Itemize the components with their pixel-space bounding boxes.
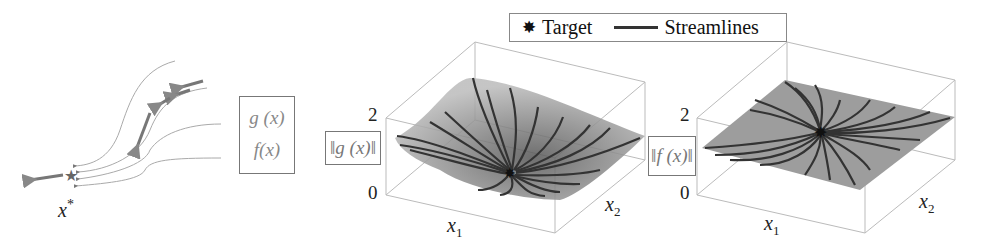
sketch-trajectories	[75, 61, 221, 186]
target-star-superscript: *	[67, 197, 74, 212]
x1-var: x	[764, 212, 773, 234]
x2-sub: 2	[614, 204, 621, 219]
target-x: x	[58, 199, 67, 221]
plot-f-ztick-0: 0	[680, 182, 690, 204]
legend-target-label: Target	[542, 16, 592, 39]
plot-g-ztick-2: 2	[368, 104, 378, 126]
legend-streamlines-label: Streamlines	[664, 16, 758, 39]
streamline-line-icon	[614, 26, 658, 29]
plot-g-zlabel: ‖g (x)‖	[325, 131, 381, 165]
plot-f-target-marker: ✸	[814, 124, 827, 141]
plot-g-xlabel: x1	[447, 214, 462, 241]
plot-f-zlabel: ‖f (x)‖	[648, 136, 696, 176]
plot-f-xlabel: x1	[764, 212, 779, 239]
x2-var: x	[919, 190, 928, 212]
plot-f-ztick-2: 2	[680, 104, 690, 126]
function-legend-box: g (x) f(x)	[239, 96, 295, 174]
plot-f-ylabel: x2	[919, 190, 934, 217]
x1-var: x	[447, 214, 456, 236]
figure-canvas: ★ ✸	[0, 0, 982, 250]
x2-sub: 2	[928, 201, 935, 216]
function-f-label: f(x)	[240, 139, 294, 161]
x2-var: x	[605, 193, 614, 215]
function-g-label: g (x)	[240, 107, 294, 129]
x1-sub: 1	[456, 225, 463, 240]
plot-g-target-marker: ✸	[504, 166, 516, 181]
plot-g-ztick-0: 0	[368, 182, 378, 204]
plot-legend: ✸ Target Streamlines	[509, 13, 787, 42]
target-marker-icon: ✸	[522, 17, 536, 38]
sketch-target-star: ★	[64, 167, 78, 184]
x1-sub: 1	[773, 223, 780, 238]
plot-g-ylabel: x2	[605, 193, 620, 220]
sketch-target-label: x*	[58, 197, 74, 222]
plot-g-surface	[395, 78, 645, 200]
